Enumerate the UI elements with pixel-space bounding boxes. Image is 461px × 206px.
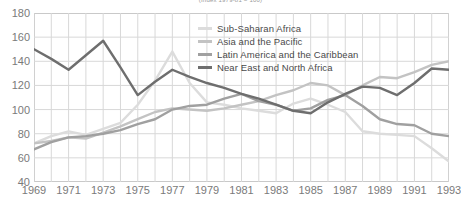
y-tick-label: 60 [2, 152, 30, 164]
legend-item[interactable]: Near East and North Africa [198, 61, 388, 74]
y-tick-label: 140 [2, 55, 30, 67]
chart-root: (Index 1979-81 = 100) 406080100120140160… [0, 0, 461, 206]
legend-swatch-icon [198, 66, 212, 69]
x-tick-label: 1971 [56, 184, 80, 196]
y-tick-label: 80 [2, 128, 30, 140]
legend-label: Asia and the Pacific [217, 36, 302, 47]
x-tick-label: 1993 [437, 184, 461, 196]
x-axis: 1969197119731975197719791981198319851987… [34, 184, 449, 202]
x-tick-label: 1989 [368, 184, 392, 196]
y-tick-label: 120 [2, 79, 30, 91]
legend-label: Near East and North Africa [217, 62, 333, 73]
legend-label: Latin America and the Caribbean [217, 49, 358, 60]
x-tick-label: 1973 [91, 184, 115, 196]
x-tick-label: 1987 [333, 184, 357, 196]
x-tick-label: 1969 [22, 184, 46, 196]
x-tick-label: 1991 [402, 184, 426, 196]
legend-label: Sub-Saharan Africa [217, 23, 301, 34]
legend-swatch-icon [198, 40, 212, 43]
legend-swatch-icon [198, 27, 212, 30]
legend-item[interactable]: Sub-Saharan Africa [198, 22, 388, 35]
y-tick-label: 160 [2, 31, 30, 43]
y-axis: 406080100120140160180 [0, 13, 30, 182]
legend-item[interactable]: Latin America and the Caribbean [198, 48, 388, 61]
chart-title: (Index 1979-81 = 100) [0, 0, 461, 5]
chart-legend: Sub-Saharan AfricaAsia and the PacificLa… [198, 22, 388, 74]
x-tick-label: 1979 [195, 184, 219, 196]
legend-item[interactable]: Asia and the Pacific [198, 35, 388, 48]
y-tick-label: 180 [2, 7, 30, 19]
x-tick-label: 1983 [264, 184, 288, 196]
y-tick-label: 100 [2, 104, 30, 116]
x-tick-label: 1977 [160, 184, 184, 196]
x-tick-label: 1981 [229, 184, 253, 196]
legend-swatch-icon [198, 53, 212, 56]
x-tick-label: 1985 [298, 184, 322, 196]
series-line [34, 94, 449, 150]
x-tick-label: 1975 [126, 184, 150, 196]
